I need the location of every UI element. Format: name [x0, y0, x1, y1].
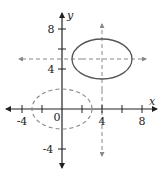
y-axis-label: y [66, 9, 74, 22]
y-tick-label: 4 [48, 63, 55, 76]
coordinate-plane-figure: -4 0 4 8 x 8 4 -4 y [0, 0, 164, 173]
y-axis: 8 4 -4 y [43, 9, 74, 168]
x-tick-label: 4 [99, 115, 106, 128]
x-tick-label: -4 [17, 115, 28, 128]
x-tick-label: 8 [139, 115, 146, 128]
origin-label: 0 [54, 111, 61, 124]
y-tick-label: 8 [48, 23, 55, 36]
x-axis-label: x [149, 95, 156, 108]
y-tick-label: -4 [43, 143, 54, 156]
x-axis: -4 0 4 8 x [6, 95, 157, 128]
